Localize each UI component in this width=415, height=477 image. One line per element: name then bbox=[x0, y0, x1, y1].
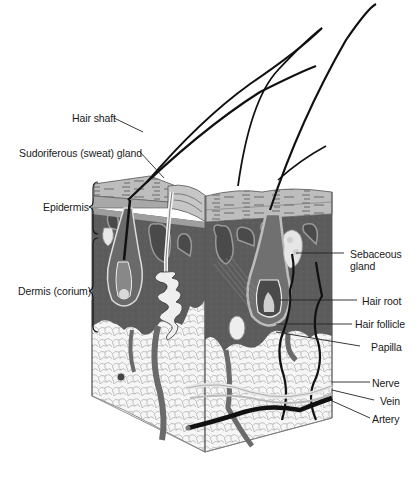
label-hair-root: Hair root bbox=[362, 295, 401, 307]
label-artery: Artery bbox=[372, 413, 399, 425]
vessel-cross-section bbox=[117, 373, 125, 381]
skin-diagram: Hair shaft Sudoriferous (sweat) gland Ep… bbox=[0, 0, 415, 477]
label-papilla: Papilla bbox=[371, 341, 402, 353]
label-sebaceous-gland: Sebaceous gland bbox=[350, 248, 402, 272]
hair-shafts bbox=[128, 4, 376, 210]
label-hair-shaft: Hair shaft bbox=[72, 112, 116, 124]
label-sebaceous-line2: gland bbox=[350, 260, 402, 272]
label-sudoriferous-gland: Sudoriferous (sweat) gland bbox=[19, 147, 142, 159]
skin-illustration bbox=[0, 0, 415, 477]
label-vein: Vein bbox=[380, 395, 400, 407]
label-epidermis: Epidermis bbox=[43, 201, 89, 213]
label-dermis: Dermis (corium) bbox=[18, 285, 91, 297]
label-sebaceous-line1: Sebaceous bbox=[350, 248, 402, 260]
label-nerve: Nerve bbox=[372, 377, 400, 389]
pacinian-corpuscle bbox=[229, 316, 245, 340]
label-hair-follicle: Hair follicle bbox=[355, 318, 405, 330]
